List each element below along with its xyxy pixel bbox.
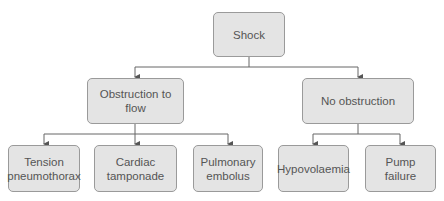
node-label: Shock [233, 28, 265, 42]
node-pump-failure: Pump failure [365, 145, 436, 192]
node-label: Hypovolaemia [277, 162, 350, 176]
node-label: No obstruction [321, 94, 395, 108]
node-obstruction-to-flow: Obstruction to flow [87, 78, 184, 124]
node-no-obstruction: No obstruction [302, 78, 414, 124]
node-shock: Shock [213, 12, 285, 57]
node-tension-pneumothorax: Tension pneumothorax [8, 145, 80, 192]
node-pulmonary-embolus: Pulmonary embolus [193, 145, 263, 192]
node-hypovolaemia: Hypovolaemia [278, 145, 349, 192]
node-label: Tension pneumothorax [7, 155, 81, 183]
node-label: Pulmonary embolus [201, 155, 256, 183]
node-label: Obstruction to flow [100, 87, 172, 115]
node-cardiac-tamponade: Cardiac tamponade [94, 145, 177, 192]
node-label: Pump failure [385, 155, 416, 183]
node-label: Cardiac tamponade [107, 155, 165, 183]
